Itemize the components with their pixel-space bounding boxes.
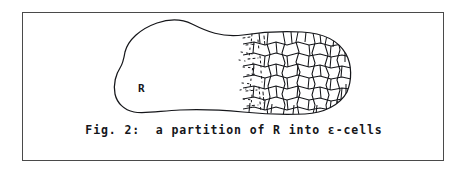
figure-border-frame (22, 12, 444, 161)
figure-caption: Fig. 2: a partition of R into ε-cells (0, 123, 468, 138)
figure-root: R Fig. 2: a partition of R into ε-cells (0, 0, 468, 175)
region-label-R: R (138, 82, 145, 95)
